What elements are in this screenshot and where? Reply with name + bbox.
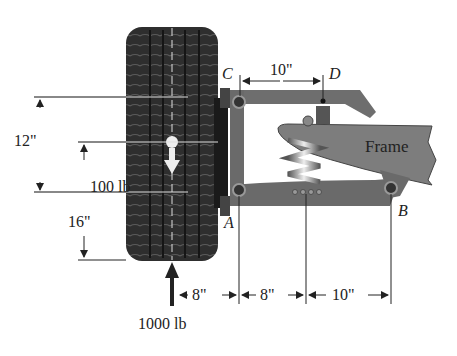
suspension-diagram: C D A B Frame 10" 12" 16" 100 lb 1000 lb… xyxy=(0,0,457,356)
dimension-cd-label: 10" xyxy=(270,62,293,78)
point-label-c: C xyxy=(222,66,233,82)
point-label-b: B xyxy=(398,203,408,219)
ground-reaction-label: 1000 lb xyxy=(138,316,186,332)
dimension-bottom-2: 8" xyxy=(260,287,275,303)
hub xyxy=(214,98,228,208)
dimension-bottom-1: 8" xyxy=(192,287,207,303)
dimension-bottom-3: 10" xyxy=(332,287,355,303)
frame-label: Frame xyxy=(365,138,408,155)
dimension-16in-label: 16" xyxy=(68,214,91,230)
spring xyxy=(288,140,320,182)
diagram-graphics xyxy=(0,0,457,356)
pin-C xyxy=(233,96,245,108)
pin-A xyxy=(233,184,245,196)
point-label-a: A xyxy=(224,215,234,231)
dimension-12in-label: 12" xyxy=(14,133,37,149)
point-label-d: D xyxy=(329,66,341,82)
weight-label: 100 lb xyxy=(90,179,130,195)
pin-B xyxy=(385,182,397,194)
ground-reaction-arrow xyxy=(165,262,179,306)
upper-arm xyxy=(230,90,376,120)
